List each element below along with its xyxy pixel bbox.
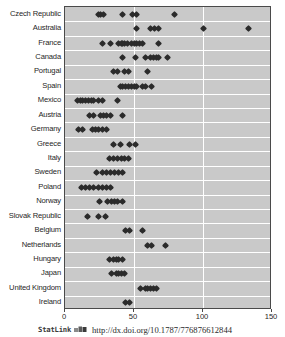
data-point — [107, 112, 114, 119]
data-point — [84, 213, 91, 220]
row-separator — [65, 281, 270, 282]
plot-area — [64, 6, 271, 309]
row-separator — [65, 94, 270, 95]
data-point — [126, 299, 133, 306]
dot-plot-figure: Czech RepublicAustraliaFranceCanadaPortu… — [0, 0, 285, 337]
data-point — [117, 141, 124, 148]
data-point — [95, 213, 102, 220]
data-point — [148, 83, 155, 90]
y-axis-label-japan: Japan — [0, 268, 61, 277]
data-point — [132, 141, 139, 148]
y-axis-label-italy: Italy — [0, 153, 61, 162]
row-separator — [65, 252, 270, 253]
x-tick-label-50: 50 — [129, 312, 137, 321]
data-point — [119, 112, 126, 119]
statlink-footer: StatLink http://dx.doi.org/10.1787/77687… — [0, 322, 285, 337]
x-tick-label-150: 150 — [265, 312, 278, 321]
data-point — [110, 141, 117, 148]
y-axis-label-hungary: Hungary — [0, 254, 61, 263]
y-axis-label-greece: Greece — [0, 139, 61, 148]
y-axis-label-france: France — [0, 38, 61, 47]
data-point — [79, 126, 86, 133]
data-point — [101, 213, 108, 220]
data-point — [126, 227, 133, 234]
data-point — [114, 97, 121, 104]
data-point — [144, 68, 151, 75]
data-point — [99, 97, 106, 104]
y-axis-label-netherlands: Netherlands — [0, 240, 61, 249]
y-axis-label-canada: Canada — [0, 52, 61, 61]
data-point — [100, 11, 107, 18]
y-axis-label-czech-republic: Czech Republic — [0, 9, 61, 18]
row-separator — [65, 238, 270, 239]
gridline-x-100 — [203, 7, 204, 308]
data-point — [119, 169, 126, 176]
data-point — [132, 54, 139, 61]
data-point — [107, 184, 114, 191]
row-separator — [65, 223, 270, 224]
y-axis-label-ireland: Ireland — [0, 297, 61, 306]
data-point — [119, 256, 126, 263]
data-point — [96, 198, 103, 205]
data-point — [245, 25, 252, 32]
y-axis-label-mexico: Mexico — [0, 95, 61, 104]
data-point — [125, 68, 132, 75]
row-separator — [65, 79, 270, 80]
data-point — [119, 198, 126, 205]
y-axis-label-sweden: Sweden — [0, 167, 61, 176]
data-point — [125, 155, 132, 162]
y-axis-category-labels: Czech RepublicAustraliaFranceCanadaPortu… — [0, 6, 61, 309]
row-separator — [65, 151, 270, 152]
data-point — [155, 25, 162, 32]
y-axis-label-austria: Austria — [0, 110, 61, 119]
row-separator — [65, 166, 270, 167]
data-point — [170, 11, 177, 18]
y-axis-label-australia: Australia — [0, 23, 61, 32]
row-separator — [65, 65, 270, 66]
y-axis-label-slovak-republic: Slovak Republic — [0, 211, 61, 220]
gridline-x-50 — [134, 7, 135, 308]
x-tick-label-0: 0 — [62, 312, 66, 321]
y-axis-label-poland: Poland — [0, 182, 61, 191]
data-point — [139, 227, 146, 234]
row-separator — [65, 122, 270, 123]
row-separator — [65, 108, 270, 109]
row-separator — [65, 267, 270, 268]
data-point — [148, 242, 155, 249]
data-point — [99, 40, 106, 47]
y-axis-label-belgium: Belgium — [0, 225, 61, 234]
data-point — [119, 54, 126, 61]
data-point — [107, 40, 114, 47]
row-separator — [65, 21, 270, 22]
y-axis-label-united-kingdom: United Kingdom — [0, 283, 61, 292]
data-point — [199, 25, 206, 32]
row-separator — [65, 180, 270, 181]
data-point — [119, 11, 126, 18]
row-separator — [65, 36, 270, 37]
data-point — [103, 126, 110, 133]
y-axis-label-norway: Norway — [0, 196, 61, 205]
y-axis-label-portugal: Portugal — [0, 66, 61, 75]
data-point — [164, 54, 171, 61]
row-separator — [65, 296, 270, 297]
data-point — [155, 40, 162, 47]
statlink-url[interactable]: http://dx.doi.org/10.1787/776876612844 — [92, 325, 232, 335]
data-point — [162, 242, 169, 249]
statlink-label: StatLink — [38, 325, 71, 334]
row-separator — [65, 209, 270, 210]
x-tick-label-100: 100 — [196, 312, 209, 321]
statlink-logo-icon — [74, 326, 87, 333]
y-axis-label-spain: Spain — [0, 81, 61, 90]
y-axis-label-germany: Germany — [0, 124, 61, 133]
data-point — [114, 68, 121, 75]
row-separator — [65, 195, 270, 196]
row-separator — [65, 137, 270, 138]
row-separator — [65, 50, 270, 51]
data-point — [133, 11, 140, 18]
